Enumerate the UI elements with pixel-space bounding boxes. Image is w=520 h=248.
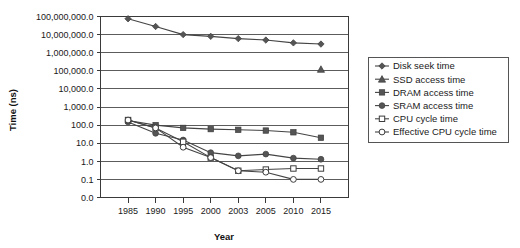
x-axis-title: Year	[214, 231, 234, 242]
marker-filled-circle	[153, 130, 159, 136]
y-axis-tick-label: 100,000.0	[53, 66, 93, 76]
marker-filled-circle	[290, 155, 296, 161]
legend-item-label: DRAM access time	[393, 87, 474, 98]
x-axis-tick-label: 2010	[283, 206, 303, 216]
marker-open-circle	[180, 144, 186, 150]
marker-filled-square	[291, 130, 296, 135]
x-axis-tick-label: 2005	[256, 206, 276, 216]
marker-open-square	[318, 166, 323, 171]
legend-item-label: CPU cycle time	[393, 113, 458, 124]
legend-item-label: Disk seek time	[393, 60, 455, 71]
y-axis-tick-label: 10.0	[76, 138, 94, 148]
x-axis-tick-label: 2003	[228, 206, 248, 216]
marker-filled-square	[180, 125, 185, 130]
chart-legend: Disk seek timeSSD access timeDRAM access…	[369, 58, 509, 143]
marker-filled-square	[379, 90, 384, 95]
log-scale-line-chart: 100,000,000.010,000,000.01,000,000.0100,…	[0, 0, 520, 248]
legend-item-label: SSD access time	[393, 74, 465, 85]
x-axis-tick-label: 1990	[146, 206, 166, 216]
marker-open-circle	[318, 177, 324, 183]
y-axis-tick-label: 0.1	[81, 175, 94, 185]
y-axis-title: Time (ns)	[7, 89, 18, 131]
marker-filled-circle	[235, 153, 241, 159]
x-axis-tick-label: 1985	[118, 206, 138, 216]
y-axis-tick-label: 1.0	[81, 157, 94, 167]
marker-open-circle	[263, 169, 269, 175]
marker-filled-square	[263, 128, 268, 133]
marker-filled-square	[236, 127, 241, 132]
marker-filled-square	[208, 126, 213, 131]
marker-open-circle	[235, 168, 241, 174]
marker-open-circle	[125, 117, 131, 123]
marker-open-square	[379, 116, 384, 121]
y-axis-tick-label: 10,000.0	[58, 84, 93, 94]
marker-filled-square	[318, 135, 323, 140]
y-axis-tick-label: 1,000.0	[63, 102, 93, 112]
marker-filled-circle	[263, 151, 269, 157]
y-axis-tick-label: 100,000,000.0	[36, 12, 94, 22]
marker-open-circle	[153, 125, 159, 131]
legend-item-label: Effective CPU cycle time	[393, 126, 497, 137]
marker-open-circle	[208, 155, 214, 161]
y-axis-tick-label: 0.0	[81, 193, 94, 203]
y-axis-tick-label: 100.0	[71, 120, 94, 130]
marker-open-square	[291, 166, 296, 171]
chart-canvas: 100,000,000.010,000,000.01,000,000.0100,…	[0, 0, 520, 248]
y-axis-tick-label: 1,000,000.0	[46, 48, 94, 58]
marker-filled-circle	[379, 103, 385, 109]
marker-open-square	[180, 139, 185, 144]
legend-item-label: SRAM access time	[393, 100, 473, 111]
y-axis-tick-label: 10,000,000.0	[41, 30, 94, 40]
x-axis-tick-label: 2000	[201, 206, 221, 216]
marker-open-circle	[290, 177, 296, 183]
x-axis-tick-label: 1995	[173, 206, 193, 216]
marker-filled-circle	[318, 156, 324, 162]
x-axis-tick-label: 2015	[311, 206, 331, 216]
marker-open-circle	[379, 129, 385, 135]
